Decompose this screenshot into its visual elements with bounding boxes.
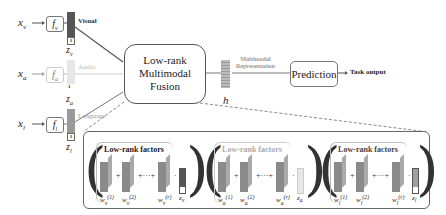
z-v-label: zv	[66, 44, 73, 57]
factors-title: Low-rank factors	[216, 145, 288, 154]
fusion-line1: Low-rank	[125, 54, 205, 67]
factor-group-audio: ( ) Low-rank factors + +···+ wa(1) wa(2)…	[204, 136, 316, 204]
prediction-box: Prediction	[290, 61, 338, 87]
fusion-box: Low-rank Multimodal Fusion	[124, 44, 206, 104]
encoder-f-l: fl	[46, 117, 64, 133]
factor-cuboid-1	[334, 158, 344, 192]
factor-group-language: ( ) Low-rank factors + +···+ wl(1) wl(2)…	[320, 136, 432, 204]
one-cell: 1	[68, 84, 71, 89]
input-x-v: xv	[18, 16, 26, 31]
vector-z-v	[67, 12, 75, 38]
factor-cuboid-2	[240, 158, 250, 192]
fusion-line2: Multimodal	[125, 67, 205, 80]
vector-z-a	[67, 60, 75, 84]
vector-z-v-small	[179, 168, 186, 194]
factor-cuboid-2	[356, 158, 366, 192]
task-output-label: Task output	[350, 68, 386, 76]
factors-title: Low-rank factors	[332, 145, 404, 154]
h-label: h	[223, 94, 229, 106]
factor-group-visual: ( ) Low-rank factors + +···+ wv(1) wv(2)…	[86, 136, 198, 204]
factor-cuboid-1	[100, 158, 110, 192]
z-a-label: za	[66, 93, 73, 106]
input-x-a: xa	[18, 67, 26, 82]
factors-title: Low-rank factors	[98, 145, 170, 154]
factor-cuboid-r	[392, 158, 402, 192]
modality-label-language: Language	[78, 112, 106, 120]
encoder-f-a: fa	[46, 67, 64, 83]
factor-cuboid-2	[122, 158, 132, 192]
factor-cuboid-r	[158, 158, 168, 192]
vector-z-l-small	[412, 168, 419, 194]
factor-cuboid-r	[276, 158, 286, 192]
modality-label-audio: Audio	[78, 63, 96, 71]
z-l-label: zl	[66, 141, 72, 154]
vector-z-a-small	[297, 168, 304, 194]
modality-label-visual: Visual	[78, 17, 97, 25]
factor-cuboid-1	[218, 158, 228, 192]
fusion-line3: Fusion	[125, 80, 205, 93]
representation-caption: Multimodal Representation	[236, 56, 275, 70]
input-x-l: xl	[18, 117, 25, 132]
one-cell: 1	[67, 133, 75, 141]
encoder-f-v: fv	[46, 16, 64, 32]
vector-z-l	[67, 109, 75, 134]
vector-h	[221, 60, 230, 88]
low-rank-expansion-panel: ( ) Low-rank factors + +···+ wv(1) wv(2)…	[83, 131, 430, 209]
